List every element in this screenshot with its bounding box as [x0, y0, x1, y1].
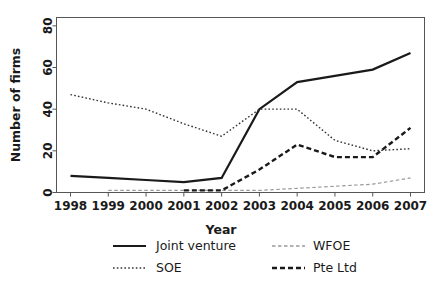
data-series-layer [71, 53, 411, 191]
y-tick-label: 80 [41, 17, 55, 34]
x-tick-label: 2003 [243, 199, 276, 213]
line-chart: 020406080 199819992000200120022003200420… [0, 0, 443, 281]
plot-area-border [57, 18, 425, 193]
chart-figure: 020406080 199819992000200120022003200420… [0, 0, 443, 281]
x-tick-label: 1998 [54, 199, 87, 213]
legend-label-wfoe: WFOE [313, 238, 350, 253]
x-axis-ticks: 1998199920002001200220032004200520062007 [54, 193, 427, 213]
x-tick-label: 2007 [394, 199, 427, 213]
series-line-pte-ltd [184, 128, 411, 191]
legend-label-soe: SOE [156, 260, 182, 275]
legend-label-pte-ltd: Pte Ltd [313, 260, 357, 275]
y-tick-label: 0 [41, 188, 55, 196]
x-axis-title: Year [205, 222, 238, 237]
x-tick-label: 2006 [356, 199, 389, 213]
y-tick-label: 60 [41, 59, 55, 76]
x-tick-label: 1999 [92, 199, 125, 213]
x-tick-label: 2005 [318, 199, 351, 213]
x-tick-label: 2004 [280, 199, 313, 213]
y-tick-label: 20 [41, 142, 55, 159]
y-tick-label: 40 [41, 101, 55, 118]
legend-label-joint-venture: Joint venture [155, 238, 236, 253]
x-tick-label: 2000 [129, 199, 162, 213]
y-axis-ticks: 020406080 [41, 17, 57, 196]
chart-legend: Joint venture WFOE SOE Pte Ltd [113, 238, 357, 275]
y-axis-title: Number of firms [8, 48, 23, 163]
x-tick-label: 2002 [205, 199, 238, 213]
series-line-joint-venture [71, 53, 411, 182]
x-tick-label: 2001 [167, 199, 200, 213]
